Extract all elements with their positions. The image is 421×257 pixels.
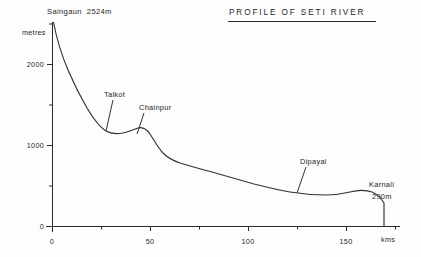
chart-figure: PROFILE OF SETI RIVER Saingaun 2524m met… [0,0,421,257]
river-profile-line [54,23,385,227]
y-axis-minor-ticks [49,24,53,186]
y-axis-major-ticks [46,65,53,227]
annotation-leader-lines [106,100,306,193]
chart-plot-area [0,0,421,257]
